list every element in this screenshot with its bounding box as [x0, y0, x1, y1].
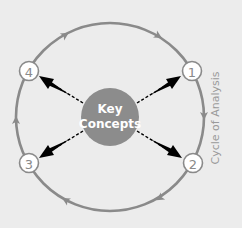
spoke-arrow-to-4 [39, 76, 83, 103]
arrowhead-icon [166, 76, 181, 89]
arrowhead-icon [167, 145, 182, 158]
spoke-arrow-to-2 [137, 131, 182, 158]
arrowhead-icon [39, 76, 54, 89]
center-label-line2: Concepts [79, 117, 141, 131]
key-concepts-hub: Key Concepts [79, 88, 141, 146]
node-4-label: 4 [25, 65, 33, 80]
node-2-label: 2 [189, 157, 197, 172]
node-3: 3 [20, 154, 39, 173]
node-1-label: 1 [188, 65, 196, 80]
node-2: 2 [184, 154, 203, 173]
cycle-of-analysis-diagram: Key Concepts 1 2 3 4 Cycle of Analysis [0, 0, 242, 228]
center-label-line1: Key [97, 102, 122, 116]
spoke-arrow-to-3 [39, 131, 83, 158]
node-1: 1 [183, 62, 202, 81]
node-3-label: 3 [25, 157, 33, 172]
cycle-of-analysis-label: Cycle of Analysis [209, 71, 222, 164]
spoke-arrow-to-1 [137, 76, 181, 103]
node-4: 4 [20, 62, 39, 81]
arrowhead-icon [39, 145, 54, 158]
